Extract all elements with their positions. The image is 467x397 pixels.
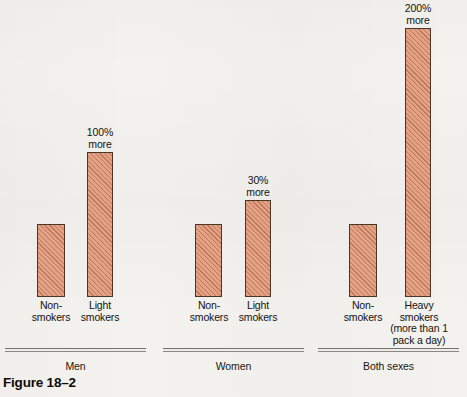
group-caption-women: Women (163, 360, 304, 372)
group-caption-men: Men (5, 360, 146, 372)
bar-bothsexes-nonsmokers (349, 224, 377, 297)
bar-label-women-lightsmokers: Light smokers (223, 300, 293, 323)
bar-women-nonsmokers (195, 224, 222, 297)
bar-bothsexes-heavysmokers (405, 28, 431, 297)
bar-value-men-lightsmokers: 100% more (62, 127, 138, 150)
group-caption-bothsexes: Both sexes (318, 360, 459, 372)
chart-plot-area: Non- smokers 100% more Light smokers Non… (0, 0, 467, 340)
bar-value-bothsexes-heavysmokers: 200% more (380, 3, 456, 26)
bar-women-lightsmokers (245, 200, 271, 297)
group-rule-women (163, 348, 304, 352)
figure-container: Non- smokers 100% more Light smokers Non… (0, 0, 467, 397)
bar-men-lightsmokers (87, 152, 113, 297)
group-rule-bothsexes (318, 348, 459, 352)
bar-label-bothsexes-heavysmokers: Heavy smokers (more than 1 pack a day) (375, 300, 463, 346)
bar-label-men-lightsmokers: Light smokers (65, 300, 135, 323)
group-rule-men (5, 348, 146, 352)
bar-men-nonsmokers (37, 224, 65, 297)
bar-value-women-lightsmokers: 30% more (220, 175, 296, 198)
figure-caption: Figure 18–2 (3, 375, 76, 390)
